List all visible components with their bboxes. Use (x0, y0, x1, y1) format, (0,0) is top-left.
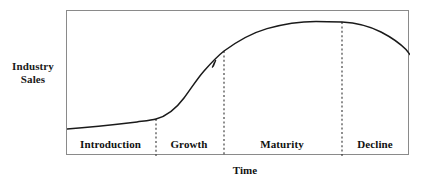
stage-label-decline: Decline (341, 138, 409, 150)
y-axis-label-line-2: Sales (2, 73, 64, 86)
x-axis-label: Time (215, 164, 275, 176)
y-axis-label-line-1: Industry (2, 60, 64, 73)
stage-label-growth: Growth (155, 138, 223, 150)
stage-label-introduction: Introduction (66, 138, 155, 150)
sales-curve-path (67, 21, 410, 129)
plot-frame (66, 10, 409, 155)
product-life-cycle-figure: Industry Sales Introduction Growth Matur… (0, 0, 422, 183)
y-axis-label: Industry Sales (2, 60, 64, 86)
product-life-cycle-curve (67, 11, 410, 156)
stage-label-maturity: Maturity (223, 138, 341, 150)
